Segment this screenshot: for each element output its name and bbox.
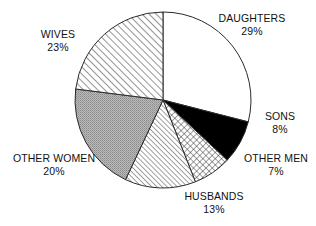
pie-slice-wives — [76, 12, 163, 100]
slice-label-wives-percent: 23% — [26, 41, 90, 54]
slice-label-sons-percent: 8% — [248, 123, 312, 136]
slice-label-husbands-percent: 13% — [172, 203, 256, 216]
slice-label-other-men-percent: 7% — [236, 165, 316, 178]
slice-label-other-women-name: OTHER WOMEN — [13, 152, 95, 164]
slice-label-wives: WIVES 23% — [26, 28, 90, 53]
slice-label-other-men: OTHER MEN 7% — [236, 152, 316, 177]
slice-label-husbands: HUSBANDS 13% — [172, 190, 256, 215]
slice-label-wives-name: WIVES — [41, 28, 75, 40]
slice-label-daughters: DAUGHTERS 29% — [196, 12, 308, 37]
slice-label-husbands-name: HUSBANDS — [184, 190, 243, 202]
slice-label-other-women: OTHER WOMEN 20% — [2, 152, 106, 177]
slice-label-sons: SONS 8% — [248, 110, 312, 135]
slice-label-daughters-name: DAUGHTERS — [219, 12, 286, 24]
slice-label-daughters-percent: 29% — [196, 25, 308, 38]
slice-label-other-women-percent: 20% — [2, 165, 106, 178]
pie-chart-figure: DAUGHTERS 29% SONS 8% OTHER MEN 7% HUSBA… — [0, 0, 316, 226]
slice-label-sons-name: SONS — [265, 110, 295, 122]
slice-label-other-men-name: OTHER MEN — [244, 152, 308, 164]
